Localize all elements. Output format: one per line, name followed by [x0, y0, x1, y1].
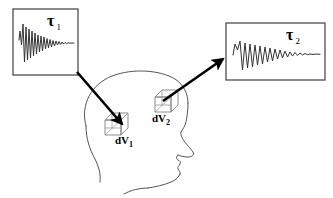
- tau-1-label: τ1: [47, 13, 61, 32]
- arrow-dv2-to-panel2: [163, 59, 223, 101]
- dv-1-label: dV1: [115, 135, 133, 149]
- tau-2-label: τ2: [286, 27, 300, 46]
- panel-tau-2: [226, 23, 325, 80]
- dv-2-label: dV2: [152, 113, 170, 127]
- panel-tau-1-border: [13, 9, 78, 75]
- dv-1-subscript: 1: [129, 140, 133, 149]
- tau-1-subscript: 1: [54, 22, 61, 32]
- dv-2-subscript: 2: [166, 118, 170, 127]
- cube-dv-1-interior: [105, 113, 121, 135]
- tau-2-subscript: 2: [293, 36, 300, 46]
- cube-dv-1-right: [121, 113, 128, 135]
- panel-tau-1: [13, 9, 78, 75]
- dv-1-text: dV: [115, 134, 129, 146]
- figure-canvas: τ1 τ2 dV1 dV2: [0, 0, 333, 198]
- dv-2-text: dV: [152, 112, 166, 124]
- arrow-panel1-to-dv1: [77, 72, 122, 124]
